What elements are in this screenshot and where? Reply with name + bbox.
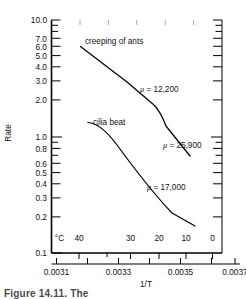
y-tick-label: 1.0 <box>35 132 47 142</box>
x-tick-label: 0.0037 <box>222 267 246 277</box>
x-tick-label: 0.0035 <box>168 267 194 277</box>
temperature-axis-ticks <box>79 253 213 259</box>
annotation-creeping-of-ants: creeping of ants <box>85 37 143 46</box>
y-tick-label: 0.4 <box>35 179 47 189</box>
y-axis-tick-labels: 10.0 7.0 6.0 5.0 4.0 3.0 2.0 1.0 0.8 0.6… <box>31 15 48 258</box>
mu-value: = 25,900 <box>167 141 202 150</box>
x-tick-label: 0.0031 <box>44 267 70 277</box>
curve-cilia-beat <box>88 123 195 227</box>
y-tick-label: 0.2 <box>35 212 47 222</box>
annotation-mu-17000: μ = 17,000 <box>146 183 186 192</box>
mu-value: = 12,200 <box>144 85 179 94</box>
y-tick-label: 0.1 <box>35 248 47 258</box>
y-tick-label: 3.0 <box>35 76 47 86</box>
figure-caption: Figure 14.11. The <box>0 288 246 299</box>
y-tick-label: 0.3 <box>35 193 47 203</box>
temperature-tick-label: 30 <box>126 233 136 243</box>
y-tick-label: 0.5 <box>35 168 47 178</box>
annotation-mu-12200: μ = 12,200 <box>139 85 179 94</box>
temperature-tick-label: 0 <box>210 233 215 243</box>
temperature-tick-label: 10 <box>181 233 191 243</box>
x-tick-label: 0.0033 <box>106 267 132 277</box>
temperature-tick-label: 40 <box>74 233 84 243</box>
y-tick-label: 2.0 <box>35 95 47 105</box>
right-axis-ticks <box>211 20 222 217</box>
temperature-tick-label: 20 <box>154 233 164 243</box>
annotation-mu-25900: μ = 25,900 <box>162 141 202 150</box>
y-tick-label: 0.8 <box>35 144 47 154</box>
inverse-temperature-axis-labels: 0.0031 0.0033 0.0035 0.0037 <box>44 267 246 277</box>
annotation-cilia-beat: cilia beat <box>93 118 126 127</box>
top-axis-ticks <box>80 20 194 25</box>
y-tick-label: 4.0 <box>35 62 47 72</box>
mu-value: = 17,000 <box>151 183 186 192</box>
curve-creeping-of-ants <box>81 47 191 157</box>
y-tick-label: 5.0 <box>35 51 47 61</box>
y-axis-ticks <box>52 20 63 253</box>
y-tick-label: 10.0 <box>31 15 48 25</box>
inverse-temperature-axis-ticks <box>57 258 236 264</box>
temperature-axis-labels: °C 40 30 20 10 0 <box>55 233 215 243</box>
y-axis-title: Rate <box>3 124 13 142</box>
temperature-axis-unit: °C <box>55 233 64 243</box>
